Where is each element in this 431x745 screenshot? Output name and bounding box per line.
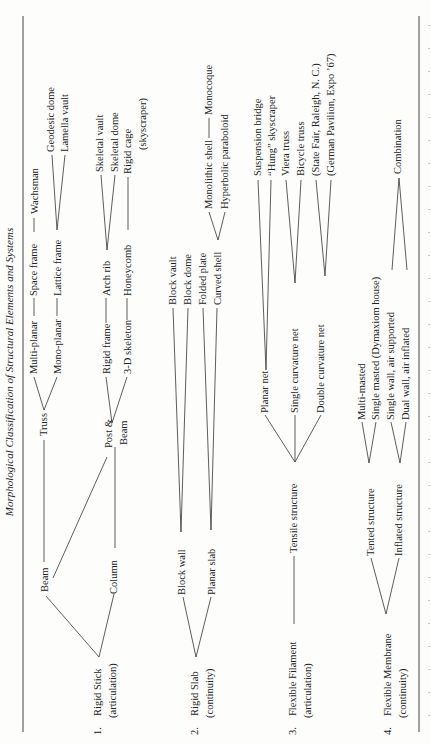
classification-diagram: Morphological Classification of Structur…: [0, 0, 431, 745]
group-flexible-filament: 3. Flexible Filament (articulation) Tens…: [252, 53, 337, 735]
inflated-structure-label: Inflated structure: [393, 484, 404, 556]
group-1-name: Rigid Stick: [92, 668, 103, 716]
single-curvature-net-label: Single curvature net: [289, 328, 300, 413]
group-3-number: 3.: [287, 727, 298, 735]
group-2-name: Rigid Slab: [189, 671, 200, 716]
column-label: Column: [108, 559, 119, 594]
monolithic-shell-label: Monolithic shell: [203, 140, 214, 209]
group-2-qualifier: (continuity): [204, 668, 216, 718]
suspension-bridge-label: Suspension bridge: [252, 98, 263, 176]
group-rigid-slab: 2. Rigid Slab (continuity) Block wall Pl…: [167, 65, 230, 735]
post-beam-label-1: Post &: [103, 419, 114, 448]
rigid-cage-label: Rigid cage: [122, 128, 133, 174]
space-frame-label: Space frame: [28, 243, 39, 296]
group-2-number: 2.: [189, 727, 200, 735]
multi-masted-label: Multi-masted: [356, 363, 367, 420]
tensile-structure-label: Tensile structure: [288, 483, 299, 553]
block-vault-label: Block vault: [167, 256, 178, 305]
group-1-qualifier: (articulation): [107, 663, 119, 718]
monocoque-label: Monocoque: [203, 65, 214, 115]
planar-slab-label: Planar slab: [206, 549, 217, 595]
beam-label: Beam: [39, 568, 50, 593]
dual-wall-label: Dual wall, air inflated: [400, 327, 411, 420]
book-page: Morphological Classification of Structur…: [0, 0, 431, 745]
hyperbolic-paraboloid-label: Hyperbolic paraboloid: [219, 113, 230, 209]
post-beam-label-2: Beam: [118, 421, 129, 446]
group-flexible-membrane: 4. Flexible Membrane (continuity) Tented…: [356, 118, 411, 735]
group-4-qualifier: (continuity): [397, 668, 409, 718]
diagram-title: Morphological Classification of Structur…: [3, 228, 15, 517]
multi-planar-label: Multi-planar: [28, 320, 39, 374]
folded-plate-label: Folded plate: [197, 252, 208, 305]
double-curvature-net-label: Double curvature net: [315, 324, 326, 413]
skeletal-dome-label: Skeletal dome: [109, 112, 120, 172]
3d-skeleton-label: 3-D skeleton: [122, 319, 133, 374]
single-masted-label: Single masted (Dymaxiom house): [370, 276, 382, 420]
arch-rib-label: Arch rib: [101, 261, 112, 296]
group-4-number: 4.: [382, 727, 393, 735]
group-4-name: Flexible Membrane: [382, 633, 393, 716]
mono-planar-label: Mono-planar: [52, 319, 63, 374]
viera-truss-label: Viera truss: [280, 131, 291, 176]
state-fair-label: (State Fair, Raleigh, N. C.): [310, 63, 322, 176]
single-wall-label: Single wall, air supported: [385, 311, 396, 420]
curved-shell-label: Curved shell: [212, 252, 223, 305]
group-rigid-stick: 1. Rigid Stick (articulation) Beam Colum…: [28, 87, 149, 735]
planar-net-label: Planar net: [259, 371, 270, 413]
group-1-number: 1.: [92, 727, 103, 735]
lattice-frame-label: Lattice frame: [52, 239, 63, 296]
combination-label: Combination: [392, 118, 403, 174]
rigid-frame-label: Rigid frame: [101, 323, 112, 374]
truss-label: Truss: [38, 413, 49, 436]
bicycle-truss-label: Bicycle truss: [295, 121, 306, 176]
lamella-vault-label: Lamella vault: [59, 94, 70, 152]
wachsman-label: Wachsman: [29, 167, 40, 214]
group-3-name: Flexible Filament: [287, 642, 298, 716]
german-pavilion-label: (German Pavilion, Expo ’67): [325, 53, 337, 176]
block-dome-label: Block dome: [182, 254, 193, 305]
honeycomb-label: Honeycomb: [122, 245, 133, 296]
geodesic-dome-label: Geodesic dome: [45, 87, 56, 152]
group-3-qualifier: (articulation): [302, 663, 314, 718]
block-wall-label: Block wall: [176, 549, 187, 595]
tented-structure-label: Tented structure: [365, 488, 376, 556]
skeletal-vault-label: Skeletal vault: [94, 114, 105, 172]
rigid-cage-note: (skyscraper): [137, 98, 149, 150]
hung-skyscraper-label: “Hung” skyscraper: [266, 95, 277, 176]
